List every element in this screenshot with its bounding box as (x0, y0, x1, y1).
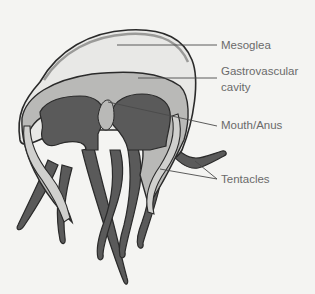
label-mesoglea: Mesoglea (221, 38, 271, 52)
jellyfish-diagram: Mesoglea Gastrovascular cavity Mouth/Anu… (0, 0, 315, 294)
tentacles (17, 144, 226, 284)
label-gastrovascular-line2: cavity (221, 80, 250, 94)
inner-lobe-right (111, 94, 171, 150)
leader-tentacles-a (160, 169, 217, 179)
label-gastrovascular-line1: Gastrovascular (221, 64, 298, 78)
inner-lobe-left (40, 96, 104, 150)
label-tentacles: Tentacles (221, 172, 270, 186)
label-mouth-anus: Mouth/Anus (221, 118, 282, 132)
